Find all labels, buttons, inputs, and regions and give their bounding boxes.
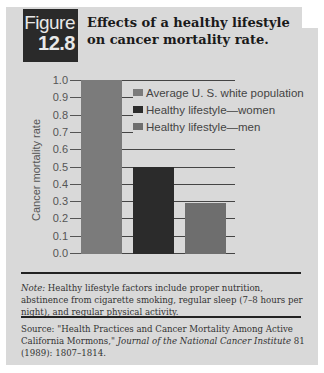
legend-item-men: Healthy lifestyle—men [133, 118, 308, 135]
y-tick [70, 167, 81, 168]
y-tick-label: 0.5 [38, 161, 68, 173]
y-tick-label: 0.9 [38, 91, 68, 103]
y-tick [70, 97, 81, 98]
y-tick [70, 253, 81, 254]
y-tick-label: 0.2 [38, 212, 68, 224]
y-tick-label: 0.3 [38, 195, 68, 207]
bar-men [185, 203, 226, 254]
legend-swatch-icon [133, 123, 143, 130]
legend-item-average: Average U. S. white population [133, 84, 308, 101]
note-text: Healthy lifestyle factors include proper… [21, 283, 303, 317]
source-journal: Journal of the National Cancer Institute [118, 336, 292, 346]
y-tick [70, 80, 81, 81]
y-tick-label: 0.6 [38, 143, 68, 155]
y-tick [70, 149, 81, 150]
bar-average [81, 80, 122, 254]
y-tick-label: 1.0 [38, 74, 68, 86]
bar-chart: Cancer mortality rate 0.00.10.20.30.40.5… [0, 0, 324, 270]
y-tick [70, 184, 81, 185]
y-tick [70, 132, 81, 133]
legend-swatch-icon [133, 89, 143, 96]
legend-label: Healthy lifestyle—men [146, 121, 260, 133]
y-tick-label: 0.7 [38, 126, 68, 138]
y-tick [70, 236, 81, 237]
y-tick-label: 0.0 [38, 247, 68, 259]
note-divider [21, 272, 301, 274]
source-label: Source: [21, 324, 55, 334]
y-tick [70, 218, 81, 219]
chart-legend: Average U. S. white populationHealthy li… [133, 84, 308, 135]
legend-swatch-icon [133, 106, 143, 113]
figure-note: Note: Healthy lifestyle factors include … [21, 282, 306, 318]
y-tick-label: 0.8 [38, 109, 68, 121]
y-tick [70, 201, 81, 202]
y-tick-label: 0.1 [38, 230, 68, 242]
legend-label: Healthy lifestyle—women [146, 104, 275, 116]
figure-source: Source: "Health Practices and Cancer Mor… [21, 323, 306, 359]
y-tick-label: 0.4 [38, 178, 68, 190]
note-label: Note: [21, 283, 45, 293]
legend-item-women: Healthy lifestyle—women [133, 101, 308, 118]
y-tick [70, 115, 81, 116]
legend-label: Average U. S. white population [146, 87, 304, 99]
source-divider [21, 316, 301, 318]
bar-women [133, 167, 174, 255]
